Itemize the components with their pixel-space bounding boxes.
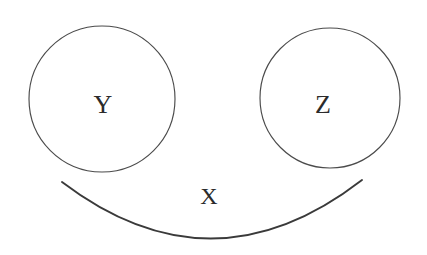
set-x-label: X bbox=[200, 183, 217, 209]
set-y-label: Y bbox=[94, 90, 113, 119]
set-diagram-figure: Y Z X bbox=[0, 0, 427, 255]
set-z-label: Z bbox=[315, 90, 331, 119]
diagram-background bbox=[0, 0, 427, 255]
diagram-canvas: Y Z X bbox=[0, 0, 427, 255]
